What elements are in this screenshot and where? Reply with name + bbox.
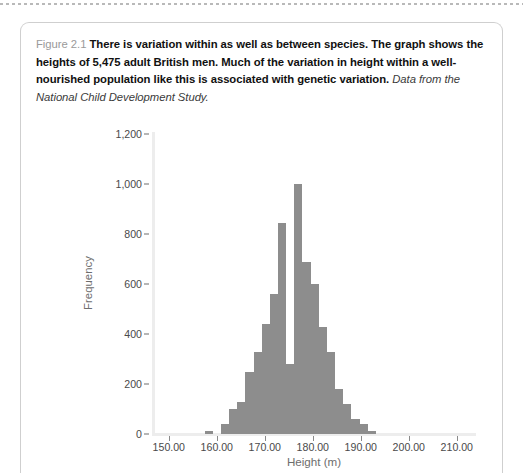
figure-caption: Figure 2.1 There is variation within as …: [36, 36, 488, 106]
page-top-dotted-rule: [0, 3, 523, 5]
figure-caption-label: Figure 2.1: [36, 38, 86, 50]
